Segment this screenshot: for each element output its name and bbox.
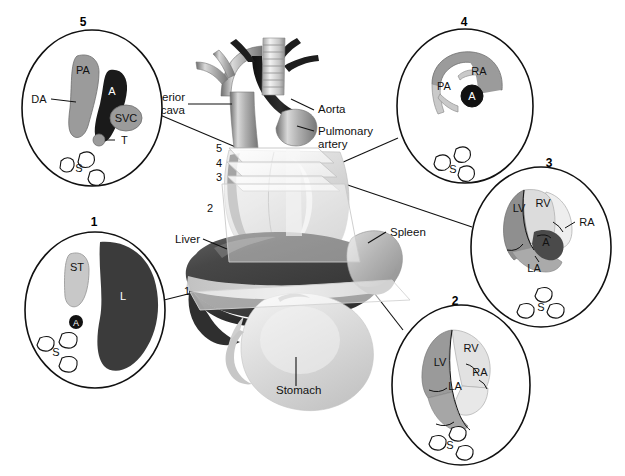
inset3-label-a: A (542, 236, 550, 248)
spine-body-right (547, 304, 564, 319)
label-stomach: Stomach (276, 384, 321, 396)
inset2-label-s: S (446, 439, 453, 451)
spine-body-mid (535, 288, 552, 303)
inset5-label-pa: PA (76, 64, 91, 76)
inset5-label-da: DA (31, 93, 47, 105)
inset2-label-ra: RA (472, 366, 488, 378)
spine-body-right (88, 170, 104, 185)
plane-4-shape (227, 162, 337, 177)
inset1-label-l: L (120, 290, 126, 302)
inset3-label-lv: LV (513, 202, 526, 214)
plane-label-1: 1 (184, 285, 190, 297)
label-pulmonary-artery-line2: artery (318, 138, 348, 150)
plane-label-4: 4 (216, 157, 222, 169)
inset2-label-rv: RV (463, 342, 479, 354)
spine-body-right (59, 357, 77, 373)
spine-body-left (517, 304, 534, 319)
inset-number-4: 4 (461, 15, 468, 29)
inset5-label-t: T (121, 134, 128, 146)
inset2-label-lv: LV (434, 356, 447, 368)
inset2-label-la: LA (448, 380, 462, 392)
spine-body-mid (59, 333, 77, 349)
label-pulmonary-artery-line1: Pulmonary (318, 125, 373, 137)
label-liver: Liver (175, 233, 200, 245)
spine-body-mid (454, 147, 470, 162)
pulmonary-artery-vessel (276, 109, 317, 146)
plane-5-shape (229, 148, 334, 163)
inset4-label-ra: RA (471, 65, 487, 77)
plane-2-shape (222, 184, 360, 262)
inset5-label-a: A (108, 85, 116, 97)
anatomy-diagram: 5 4 3 2 1 Superior vena cava Aorta Pulmo… (0, 0, 625, 476)
trachea (262, 38, 285, 95)
inset4-label-pa: PA (437, 80, 452, 92)
inset3-label-ra: RA (579, 216, 595, 228)
spine-body-left (60, 158, 74, 172)
figure-canvas: 5 4 3 2 1 Superior vena cava Aorta Pulmo… (0, 0, 625, 476)
inset1-label-a: A (73, 318, 79, 328)
inset4-label-a: A (468, 90, 476, 102)
inset-number-1: 1 (91, 215, 98, 229)
spine-body-left (429, 436, 446, 451)
plane-label-3: 3 (216, 171, 222, 183)
spine-body-right (458, 166, 474, 181)
label-aorta: Aorta (318, 103, 346, 115)
inset-number-5: 5 (80, 15, 87, 29)
inset3-label-rv: RV (535, 197, 551, 209)
superior-vena-cava-vessel (230, 92, 258, 148)
inset1-label-s: S (52, 346, 59, 358)
plane-label-5: 5 (216, 142, 222, 154)
inset5-label-svc: SVC (115, 112, 138, 124)
plane-label-2: 2 (207, 202, 213, 214)
inset5-label-s: S (75, 162, 82, 174)
label-spleen: Spleen (390, 226, 426, 238)
inset3-label-s: S (537, 301, 544, 313)
inset3-label-la: LA (527, 262, 541, 274)
inset4-label-s: S (449, 163, 456, 175)
inset5-trachea-shape (93, 134, 105, 146)
inset1-label-st: ST (70, 261, 84, 273)
spine-body-right (456, 446, 473, 461)
stomach-highlight (260, 306, 340, 374)
spine-body-left (434, 155, 450, 170)
